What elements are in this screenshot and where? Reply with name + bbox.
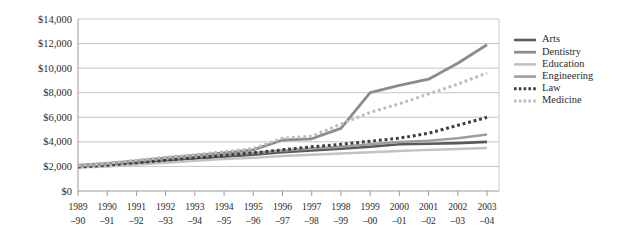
x-axis-label-year-end: –96: [245, 215, 261, 226]
x-axis-label-year-end: –90: [70, 215, 86, 226]
x-axis-label-year: 2000: [390, 201, 409, 212]
x-axis-label-year: 1991: [127, 201, 146, 212]
series-lines: [78, 45, 487, 168]
legend-label-education: Education: [542, 58, 585, 69]
x-axis-label-year-end: –92: [128, 215, 144, 226]
x-axis-label-year-end: –93: [157, 215, 173, 226]
chart-legend: ArtsDentistryEducationEngineeringLawMedi…: [514, 33, 594, 105]
x-axis-ticks: [78, 191, 487, 196]
x-axis-label-year-end: –02: [420, 215, 436, 226]
y-axis-tick-label: $0: [62, 186, 73, 197]
x-axis-label-year-end: –91: [99, 215, 115, 226]
legend-label-law: Law: [542, 82, 561, 93]
x-axis-label-year-end: –99: [333, 215, 349, 226]
x-axis-label-year-end: –04: [479, 215, 495, 226]
x-axis-label-year: 1999: [361, 201, 380, 212]
y-axis-labels: $0$2,000$4,000$6,000$8,000$10,000$12,000…: [38, 14, 72, 197]
x-axis-label-year: 2001: [419, 201, 438, 212]
x-axis-label-year: 2002: [448, 201, 467, 212]
x-axis-label-year-end: –98: [304, 215, 320, 226]
x-axis-label-year: 1998: [331, 201, 350, 212]
x-axis-label-year-end: –94: [187, 215, 203, 226]
x-axis-label-year-end: –95: [216, 215, 232, 226]
x-axis-label-year: 2003: [477, 201, 496, 212]
x-axis-label-year-end: –03: [450, 215, 466, 226]
x-axis-label-year: 1995: [244, 201, 263, 212]
line-chart: $0$2,000$4,000$6,000$8,000$10,000$12,000…: [0, 0, 637, 242]
x-axis-label-year: 1997: [302, 201, 321, 212]
x-axis-labels: 1989–901990–911991–921992–931993–941994–…: [68, 201, 496, 226]
chart-container: $0$2,000$4,000$6,000$8,000$10,000$12,000…: [0, 0, 637, 242]
y-axis-tick-label: $12,000: [38, 38, 72, 49]
legend-label-arts: Arts: [542, 33, 560, 44]
legend-label-dentistry: Dentistry: [542, 46, 582, 57]
legend-label-medicine: Medicine: [542, 94, 582, 105]
y-axis-tick-label: $6,000: [43, 112, 72, 123]
y-axis-tick-label: $8,000: [43, 87, 72, 98]
y-axis-tick-label: $2,000: [43, 161, 72, 172]
x-axis-label-year-end: –01: [391, 215, 407, 226]
x-axis-label-year-end: –97: [274, 215, 290, 226]
x-axis-label-year: 1993: [185, 201, 204, 212]
y-axis-tick-label: $4,000: [43, 136, 72, 147]
x-axis-label-year: 1989: [68, 201, 87, 212]
y-axis-tick-label: $10,000: [38, 63, 72, 74]
y-axis-tick-label: $14,000: [38, 14, 72, 25]
x-axis-label-year: 1994: [214, 201, 233, 212]
x-axis-label-year: 1996: [273, 201, 292, 212]
series-line-dentistry: [78, 45, 487, 165]
legend-label-engineering: Engineering: [542, 70, 594, 81]
x-axis-label-year: 1990: [98, 201, 117, 212]
x-axis-label-year: 1992: [156, 201, 175, 212]
series-line-arts: [78, 142, 487, 167]
x-axis-label-year-end: –00: [362, 215, 378, 226]
